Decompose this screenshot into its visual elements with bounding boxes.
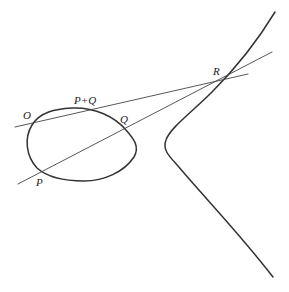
label-P-plus-Q: P+Q — [73, 94, 96, 106]
curve-unbounded-branch — [165, 12, 275, 277]
label-P: P — [35, 176, 43, 188]
label-R: R — [212, 65, 220, 77]
elliptic-curve-diagram: O P+Q Q P R — [0, 0, 289, 292]
label-Q: Q — [120, 113, 128, 125]
line-O-R — [15, 74, 248, 127]
label-O: O — [23, 109, 31, 121]
